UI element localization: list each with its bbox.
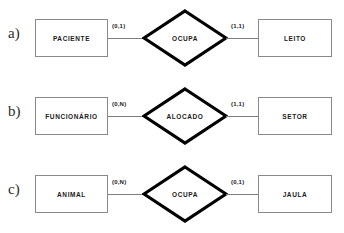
entity-box-setor: SETOR xyxy=(258,97,332,135)
cardinality-right: (0,1) xyxy=(231,179,244,185)
relationship-label: ALOCADO xyxy=(142,87,228,145)
relationship-diamond-ocupa: OCUPA xyxy=(142,165,228,223)
connector-line-right xyxy=(226,194,258,195)
row-label-c: c) xyxy=(8,182,34,197)
entity-label: FUNCIONÁRIO xyxy=(45,113,97,120)
entity-box-animal: ANIMAL xyxy=(35,175,108,213)
connector-line-right xyxy=(226,116,258,117)
entity-box-funcionario: FUNCIONÁRIO xyxy=(35,97,108,135)
connector-line-right xyxy=(226,38,258,39)
cardinality-left: (0,N) xyxy=(112,101,126,107)
entity-label: SETOR xyxy=(282,113,307,120)
row-label-a: a) xyxy=(8,26,34,41)
connector-line-left xyxy=(108,116,144,117)
relationship-diamond-ocupa: OCUPA xyxy=(142,9,228,67)
entity-box-paciente: PACIENTE xyxy=(35,19,108,57)
entity-label: ANIMAL xyxy=(57,191,86,198)
entity-label: PACIENTE xyxy=(53,35,90,42)
row-label-b: b) xyxy=(8,104,34,119)
cardinality-right: (1,1) xyxy=(231,23,244,29)
cardinality-left: (0,N) xyxy=(112,179,126,185)
entity-label: LEITO xyxy=(284,35,306,42)
cardinality-right: (1,1) xyxy=(231,101,244,107)
er-row-b: b) FUNCIONÁRIO (0,N) ALOCADO (1,1) SETOR xyxy=(0,78,344,156)
entity-box-jaula: JAULA xyxy=(258,175,332,213)
relationship-label: OCUPA xyxy=(142,165,228,223)
er-row-a: a) PACIENTE (0,1) OCUPA (1,1) LEITO xyxy=(0,0,344,78)
entity-box-leito: LEITO xyxy=(258,19,332,57)
cardinality-left: (0,1) xyxy=(112,23,125,29)
entity-label: JAULA xyxy=(283,191,308,198)
connector-line-left xyxy=(108,194,144,195)
er-diagram: a) PACIENTE (0,1) OCUPA (1,1) LEITO b) F… xyxy=(0,0,344,233)
relationship-diamond-alocado: ALOCADO xyxy=(142,87,228,145)
connector-line-left xyxy=(108,38,144,39)
er-row-c: c) ANIMAL (0,N) OCUPA (0,1) JAULA xyxy=(0,156,344,233)
relationship-label: OCUPA xyxy=(142,9,228,67)
